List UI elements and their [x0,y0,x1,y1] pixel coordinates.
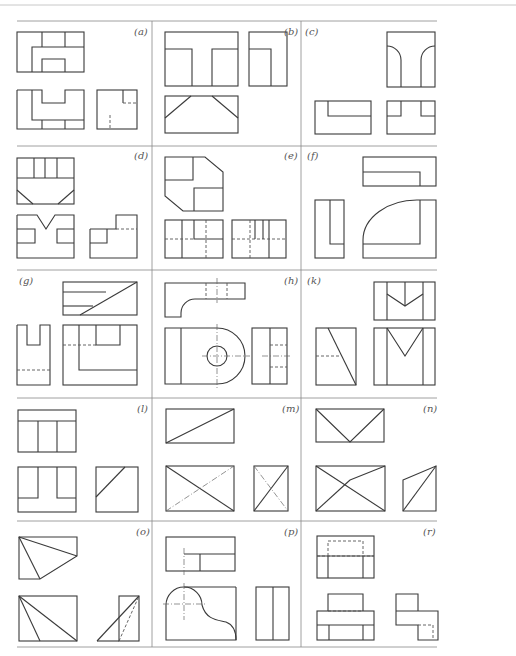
panel-h-drawing [165,278,292,388]
panel-d-drawing [17,158,137,258]
panel-o-drawing [19,537,139,641]
drawing-grid [0,0,516,656]
panel-a-drawing [17,32,137,129]
panel-l-drawing [18,410,138,512]
panel-k-drawing [316,282,435,385]
panel-label-m: (m) [282,404,299,414]
panel-label-b: (b) [284,27,298,37]
panel-p-drawing [163,537,289,640]
panel-b-drawing [165,32,287,133]
panel-label-o: (o) [136,527,150,537]
panel-f-drawing [315,157,436,258]
panel-label-r: (r) [423,527,436,537]
panel-e-drawing [165,157,286,258]
panel-label-h: (h) [284,276,298,286]
projection-exercise-sheet: (a) (b) (c) (d) (e) (f) (g) (h) (k) (l) … [0,0,516,656]
panel-g-drawing [17,282,137,385]
panel-label-n: (n) [423,404,437,414]
panel-label-l: (l) [137,404,148,414]
panel-label-f: (f) [307,151,319,161]
panel-label-c: (c) [305,27,318,37]
panel-r-drawing [317,536,438,640]
panel-c-drawing [315,32,435,134]
panel-label-a: (a) [134,27,148,37]
panel-label-p: (p) [284,527,298,537]
panel-n-drawing [316,409,436,511]
panel-label-k: (k) [307,276,321,286]
panel-label-g: (g) [19,276,33,286]
panel-label-e: (e) [284,151,298,161]
panel-m-drawing [166,409,288,511]
panel-label-d: (d) [134,151,148,161]
